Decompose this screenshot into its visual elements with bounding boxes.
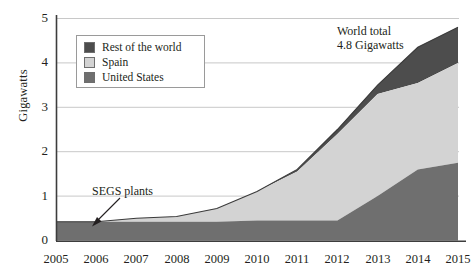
y-tick-0: 0 xyxy=(26,232,48,248)
x-tick-2011: 2011 xyxy=(275,252,319,267)
legend-swatch-spain xyxy=(84,57,95,68)
annotation-segs-plants: SEGS plants xyxy=(92,184,153,198)
annotation-world-total: World total 4.8 Gigawatts xyxy=(337,24,404,52)
legend-swatch-rest-of-the-world xyxy=(84,42,95,53)
x-tick-2008: 2008 xyxy=(155,252,199,267)
chart-legend: Rest of the world Spain United States xyxy=(76,35,205,88)
x-tick-2009: 2009 xyxy=(195,252,239,267)
x-tick-2006: 2006 xyxy=(74,252,118,267)
x-tick-2010: 2010 xyxy=(235,252,279,267)
y-tick-5: 5 xyxy=(26,10,48,26)
legend-label-united-states: United States xyxy=(102,72,164,84)
solar-capacity-area-chart: Gigawatts 5 4 3 2 1 0 2005 2006 2007 200… xyxy=(0,0,471,277)
legend-item-rest-of-the-world[interactable]: Rest of the world xyxy=(84,40,204,55)
y-tick-3: 3 xyxy=(26,99,48,115)
annotation-world-total-line1: World total xyxy=(337,24,404,38)
legend-item-spain[interactable]: Spain xyxy=(84,55,204,70)
x-tick-2013: 2013 xyxy=(356,252,400,267)
x-tick-2015: 2015 xyxy=(436,252,471,267)
x-tick-2012: 2012 xyxy=(315,252,359,267)
x-tick-2005: 2005 xyxy=(34,252,78,267)
y-tick-1: 1 xyxy=(26,188,48,204)
x-tick-2007: 2007 xyxy=(114,252,158,267)
legend-label-spain: Spain xyxy=(102,57,128,69)
legend-swatch-united-states xyxy=(84,72,95,83)
y-tick-4: 4 xyxy=(26,54,48,70)
legend-label-rest-of-the-world: Rest of the world xyxy=(102,42,182,54)
annotation-world-total-line2: 4.8 Gigawatts xyxy=(337,38,404,52)
legend-item-united-states[interactable]: United States xyxy=(84,70,204,85)
x-tick-2014: 2014 xyxy=(396,252,440,267)
y-tick-2: 2 xyxy=(26,143,48,159)
